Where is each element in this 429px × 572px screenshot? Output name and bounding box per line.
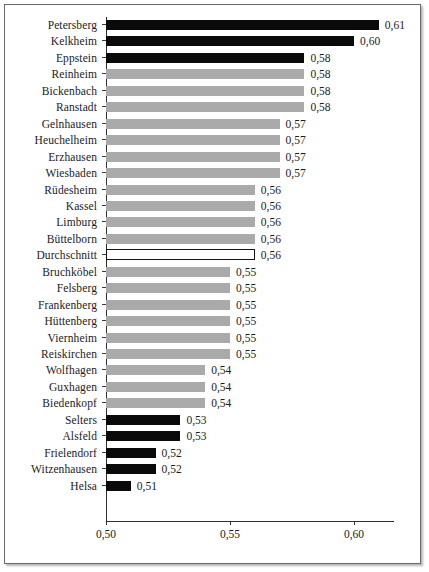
bar-row: Hüttenberg0,55 (5, 313, 420, 329)
category-label: Hüttenberg (5, 313, 97, 329)
bar (106, 185, 255, 195)
bar-row: Wolfhagen0,54 (5, 362, 420, 378)
bar-row: Alsfeld0,53 (5, 428, 420, 444)
bar-value-label: 0,52 (162, 461, 182, 477)
bar-value-label: 0,58 (310, 50, 330, 66)
category-label: Frielendorf (5, 445, 97, 461)
bar-value-label: 0,56 (261, 198, 281, 214)
category-label: Guxhagen (5, 379, 97, 395)
category-label: Durchschnitt (5, 247, 97, 263)
category-label: Eppstein (5, 50, 97, 66)
bar-row: Bickenbach0,58 (5, 83, 420, 99)
bar-row: Wiesbaden0,57 (5, 165, 420, 181)
bar-value-label: 0,51 (137, 478, 157, 494)
bar (106, 316, 230, 326)
category-label: Frankenberg (5, 297, 97, 313)
bar-row: Petersberg0,61 (5, 17, 420, 33)
bar-row: Kassel0,56 (5, 198, 420, 214)
bar-row: Ranstadt0,58 (5, 99, 420, 115)
x-axis-tick (230, 521, 231, 525)
category-label: Petersberg (5, 17, 97, 33)
category-label: Witzenhausen (5, 461, 97, 477)
bar (106, 249, 255, 260)
category-label: Alsfeld (5, 428, 97, 444)
bar-row: Erzhausen0,57 (5, 149, 420, 165)
category-label: Ranstadt (5, 99, 97, 115)
bar-value-label: 0,58 (310, 83, 330, 99)
bar-value-label: 0,60 (360, 33, 380, 49)
bar-row: Gelnhausen0,57 (5, 116, 420, 132)
bar-value-label: 0,53 (186, 428, 206, 444)
bar-value-label: 0,56 (261, 214, 281, 230)
category-label: Limburg (5, 214, 97, 230)
category-label: Gelnhausen (5, 116, 97, 132)
bar (106, 234, 255, 244)
bar-row: Guxhagen0,54 (5, 379, 420, 395)
category-label: Rüdesheim (5, 182, 97, 198)
bar-row: Biedenkopf0,54 (5, 395, 420, 411)
category-label: Selters (5, 412, 97, 428)
bar-value-label: 0,57 (286, 149, 306, 165)
bar-value-label: 0,58 (310, 66, 330, 82)
bar-value-label: 0,56 (261, 231, 281, 247)
bar (106, 398, 205, 408)
bar (106, 382, 205, 392)
bar (106, 36, 354, 46)
bar-chart-plot-area: Petersberg0,61Kelkheim0,60Eppstein0,58Re… (5, 5, 420, 563)
bar-value-label: 0,54 (211, 379, 231, 395)
bar-value-label: 0,61 (385, 17, 405, 33)
bar-row: Reiskirchen0,55 (5, 346, 420, 362)
category-label: Biedenkopf (5, 395, 97, 411)
bar-value-label: 0,55 (236, 330, 256, 346)
bar-value-label: 0,55 (236, 313, 256, 329)
bar-row: Selters0,53 (5, 412, 420, 428)
bar-row: Frankenberg0,55 (5, 297, 420, 313)
bar (106, 53, 304, 63)
bar-value-label: 0,58 (310, 99, 330, 115)
x-axis-tick (106, 521, 107, 525)
bar-row: Limburg0,56 (5, 214, 420, 230)
bar-value-label: 0,53 (186, 412, 206, 428)
bar (106, 365, 205, 375)
bar-row: Büttelborn0,56 (5, 231, 420, 247)
bar-value-label: 0,57 (286, 132, 306, 148)
x-axis-tick-label: 0,50 (96, 527, 116, 541)
bar-value-label: 0,54 (211, 362, 231, 378)
category-label: Felsberg (5, 280, 97, 296)
bar (106, 102, 304, 112)
bar-row: Viernheim0,55 (5, 330, 420, 346)
bar (106, 415, 180, 425)
bar-row: Felsberg0,55 (5, 280, 420, 296)
bar (106, 152, 280, 162)
bar (106, 283, 230, 293)
bar (106, 69, 304, 79)
category-label: Büttelborn (5, 231, 97, 247)
bar (106, 168, 280, 178)
category-label: Heuchelheim (5, 132, 97, 148)
bar-row: Reinheim0,58 (5, 66, 420, 82)
category-label: Erzhausen (5, 149, 97, 165)
category-label: Reinheim (5, 66, 97, 82)
x-axis-tick-label: 0,60 (344, 527, 364, 541)
bar-row: Heuchelheim0,57 (5, 132, 420, 148)
bar-row: Helsa0,51 (5, 478, 420, 494)
category-label: Bruchköbel (5, 264, 97, 280)
category-label: Wiesbaden (5, 165, 97, 181)
bar-value-label: 0,55 (236, 346, 256, 362)
category-label: Reiskirchen (5, 346, 97, 362)
bar (106, 481, 131, 491)
x-axis-line (106, 521, 394, 522)
bar-row: Frielendorf0,52 (5, 445, 420, 461)
chart-frame: Petersberg0,61Kelkheim0,60Eppstein0,58Re… (4, 4, 421, 564)
bar-value-label: 0,55 (236, 264, 256, 280)
category-label: Wolfhagen (5, 362, 97, 378)
category-label: Kelkheim (5, 33, 97, 49)
bar-row: Witzenhausen0,52 (5, 461, 420, 477)
bar-row: Durchschnitt0,56 (5, 247, 420, 263)
bar-value-label: 0,52 (162, 445, 182, 461)
bar (106, 349, 230, 359)
category-label: Bickenbach (5, 83, 97, 99)
bar-value-label: 0,54 (211, 395, 231, 411)
bar-value-label: 0,56 (261, 247, 281, 263)
x-axis-tick (354, 521, 355, 525)
